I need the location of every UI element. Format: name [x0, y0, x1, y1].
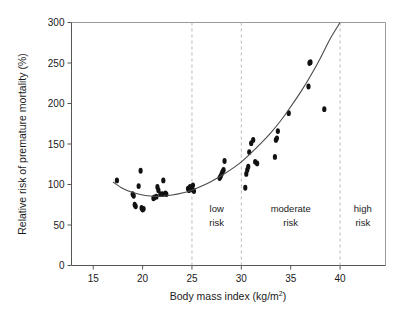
scatter-point — [276, 128, 280, 134]
y-tick-label: 100 — [48, 179, 65, 190]
zone-label-line2: risk — [355, 217, 370, 228]
y-tick-label: 50 — [53, 220, 65, 231]
scatter-point — [221, 167, 225, 173]
x-tick-label: 25 — [186, 273, 198, 284]
plot-frame — [72, 23, 386, 266]
risk-zone-labels: lowriskmoderateriskhighrisk — [209, 203, 372, 228]
scatter-point — [251, 137, 255, 143]
fit-curve-path — [113, 23, 340, 197]
y-tick-label: 150 — [48, 139, 65, 150]
y-axis-ticks: 050100150200250300 — [48, 17, 72, 271]
y-axis-title: Relative risk of premature mortality (%) — [16, 53, 28, 234]
scatter-point — [243, 185, 247, 191]
scatter-point — [322, 106, 326, 112]
zone-label-line2: risk — [283, 217, 298, 228]
zone-label-line1: moderate — [271, 203, 311, 214]
y-tick-label: 200 — [48, 98, 65, 109]
fitted-curve — [113, 23, 340, 197]
scatter-point — [222, 158, 226, 164]
scatter-point — [255, 161, 259, 167]
y-tick-label: 300 — [48, 17, 65, 28]
y-tick-label: 250 — [48, 58, 65, 69]
scatter-point — [137, 183, 141, 189]
scatter-point — [134, 203, 138, 209]
scatter-point — [115, 178, 119, 184]
x-tick-label: 15 — [88, 273, 100, 284]
scatter-point — [141, 206, 145, 212]
scatter-point — [139, 168, 143, 174]
y-tick-label: 0 — [59, 260, 65, 271]
plot-border — [72, 23, 386, 266]
scatter-points — [115, 59, 327, 212]
zone-label-line1: high — [354, 203, 372, 214]
scatter-point — [161, 178, 165, 184]
x-tick-label: 35 — [285, 273, 297, 284]
scatter-point — [306, 84, 310, 90]
scatter-point — [308, 59, 312, 65]
chart-figure: 152025303540 050100150200250300 lowriskm… — [0, 0, 400, 316]
zone-label-line2: risk — [209, 217, 224, 228]
x-tick-label: 40 — [335, 273, 347, 284]
x-axis-title: Body mass index (kg/m2) — [170, 290, 287, 302]
scatter-point — [246, 164, 250, 170]
zone-label-line1: low — [210, 203, 224, 214]
x-tick-label: 30 — [236, 273, 248, 284]
risk-zone-dividers — [192, 23, 340, 266]
scatter-point — [275, 135, 279, 141]
bmi-mortality-scatter-plot: 152025303540 050100150200250300 lowriskm… — [0, 0, 400, 316]
scatter-point — [191, 182, 195, 188]
x-axis-ticks: 152025303540 — [88, 266, 346, 284]
scatter-point — [273, 154, 277, 160]
x-tick-label: 20 — [137, 273, 149, 284]
